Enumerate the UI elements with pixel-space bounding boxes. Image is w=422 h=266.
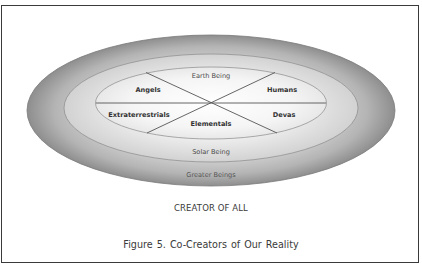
segment-label-humans: Humans xyxy=(267,86,297,94)
segment-label-earth-being: Earth Being xyxy=(192,72,231,80)
segment-label-angels: Angels xyxy=(135,86,160,94)
creator-of-all-label: CREATOR OF ALL xyxy=(0,203,422,213)
segment-label-extraterrestrials: Extraterrestrials xyxy=(108,111,170,119)
figure-caption: Figure 5. Co-Creators of Our Reality xyxy=(0,239,422,250)
ring-label-greater-beings: Greater Beings xyxy=(186,171,236,179)
ring-label-solar-being: Solar Being xyxy=(192,148,230,156)
segment-label-devas: Devas xyxy=(273,111,296,119)
segment-label-elementals: Elementals xyxy=(190,120,231,128)
co-creators-diagram: Earth Being Angels Humans Extraterrestri… xyxy=(0,0,422,266)
